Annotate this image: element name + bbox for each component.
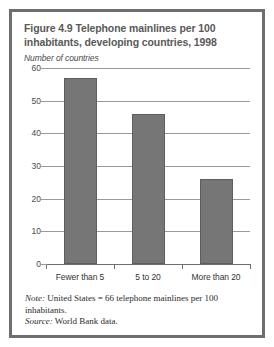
y-axis-tick-label: 50 [24,96,41,105]
source-body: World Bank data. [53,316,118,326]
y-axis-tick-mark [41,133,47,134]
note-line: Note: United States = 66 telephone mainl… [25,293,251,316]
x-axis-line [46,264,250,265]
x-axis-category-label: 5 to 20 [114,272,182,282]
y-axis-tick-mark [41,68,47,69]
y-axis-tick-mark [41,166,47,167]
chart-canvas [46,68,250,264]
x-axis-tick-mark [114,264,115,269]
bar [64,78,97,264]
source-label: Source: [25,316,53,326]
x-axis-category-label: More than 20 [182,272,250,282]
y-axis-tick-label: 10 [24,227,41,236]
figure-notes: Note: United States = 66 telephone mainl… [25,293,251,328]
figure-inner: Figure 4.9 Telephone mainlines per 100 i… [12,12,262,335]
y-axis-tick-label: 0 [24,260,41,269]
y-axis-tick-label: 20 [24,194,41,203]
bar [132,114,165,264]
source-line: Source: World Bank data. [25,316,251,328]
y-axis-tick-mark [41,264,47,265]
gridline-60 [46,68,250,69]
chart-plot-area: Fewer than 55 to 20More than 20 01020304… [24,68,256,283]
y-axis-tick-mark [41,101,47,102]
figure-title: Figure 4.9 Telephone mainlines per 100 i… [24,21,252,49]
note-body: United States = 66 telephone mainlines p… [25,293,218,315]
x-axis-tick-mark [182,264,183,269]
y-axis-tick-label: 60 [24,64,41,73]
y-axis-caption: Number of countries [24,53,99,63]
y-axis-tick-label: 40 [24,129,41,138]
x-axis-tick-mark [250,264,251,269]
bar [200,179,233,264]
note-label: Note: [25,293,45,303]
y-axis-tick-label: 30 [24,162,41,171]
figure-frame: Figure 4.9 Telephone mainlines per 100 i… [9,9,265,338]
y-axis-tick-mark [41,231,47,232]
x-axis-category-label: Fewer than 5 [46,272,114,282]
y-axis-tick-mark [41,199,47,200]
